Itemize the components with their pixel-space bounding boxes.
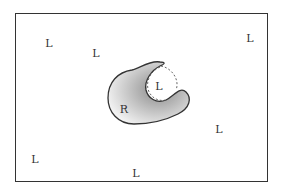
free-ligand-label: L [31, 154, 38, 165]
receptor-label: R [120, 104, 128, 115]
bound-ligand-label: L [155, 81, 162, 92]
free-ligand-label: L [45, 38, 52, 49]
free-ligand-label: L [132, 168, 139, 179]
free-ligand-label: L [215, 124, 222, 135]
free-ligand-label: L [92, 48, 99, 59]
free-ligand-label: L [246, 33, 253, 44]
receptor-shape [0, 0, 283, 192]
